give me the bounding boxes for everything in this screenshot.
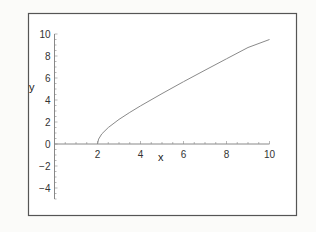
y-tick-label: 6 xyxy=(45,73,51,84)
y-tick-label: −2 xyxy=(39,161,51,172)
x-axis-label: x xyxy=(158,151,164,163)
x-tick-label: 8 xyxy=(224,149,230,160)
y-tick-label: 2 xyxy=(45,117,51,128)
x-tick-label: 4 xyxy=(138,149,144,160)
x-tick-label: 10 xyxy=(264,149,276,160)
x-tick-label: 6 xyxy=(181,149,187,160)
chart-plot: −4−20246810246810 x y xyxy=(0,0,316,232)
chart-frame xyxy=(29,14,297,216)
y-tick-label: −4 xyxy=(39,183,51,194)
y-tick-label: 8 xyxy=(45,51,51,62)
y-tick-label: 0 xyxy=(45,139,51,150)
y-axis-label: y xyxy=(29,81,35,93)
y-tick-label: 10 xyxy=(39,29,51,40)
y-tick-label: 4 xyxy=(45,95,51,106)
x-tick-label: 2 xyxy=(95,149,101,160)
